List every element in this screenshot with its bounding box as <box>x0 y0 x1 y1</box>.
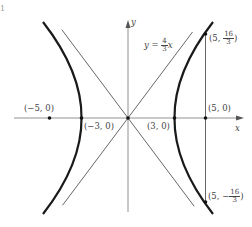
label-lower-end: (5, −163) <box>208 189 244 204</box>
asymptote-equation: y = 43x <box>144 38 173 53</box>
equation-var: x <box>168 40 173 50</box>
label-left-focus: (−5, 0) <box>24 104 54 113</box>
label-left-vertex: (−3, 0) <box>84 122 114 131</box>
x-axis-arrow-icon <box>236 116 244 121</box>
point-right-focus <box>204 116 208 120</box>
x-axis-label: x <box>235 124 240 133</box>
upper-prefix: (5, <box>209 33 223 43</box>
point-origin <box>126 116 130 120</box>
hyperbola-diagram: 1 y x y = 43x (−5, 0) (−3, 0) (3, 0) (5, <box>0 0 252 227</box>
upper-den: 3 <box>225 39 231 46</box>
label-right-vertex: (3, 0) <box>147 122 170 131</box>
point-upper-end <box>204 32 208 36</box>
lower-prefix: (5, − <box>208 191 229 201</box>
point-left-focus <box>48 116 52 120</box>
y-axis-label: y <box>131 18 136 27</box>
upper-suffix: ) <box>234 33 237 43</box>
lower-suffix: ) <box>240 191 243 201</box>
upper-fraction: 163 <box>223 31 234 46</box>
label-upper-end: (5, 163) <box>209 31 237 46</box>
equation-equals: = <box>149 40 162 50</box>
label-right-focus: (5, 0) <box>208 104 231 113</box>
point-right-vertex <box>173 116 177 120</box>
lower-fraction: 163 <box>229 189 240 204</box>
point-left-vertex <box>80 116 84 120</box>
point-lower-end <box>204 200 208 204</box>
y-axis-arrow-icon <box>126 20 131 28</box>
lower-den: 3 <box>231 197 237 204</box>
